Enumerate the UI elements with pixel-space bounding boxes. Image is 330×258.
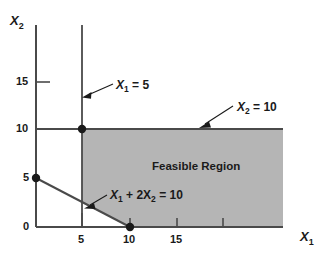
feasible-region-label: Feasible Region [152,161,240,173]
annotation-arrow-x1-eq-5 [82,84,113,99]
feasible-region-shading [82,129,283,227]
y-tick-label-0: 0 [23,221,29,232]
x-tick-label-10: 10 [123,234,135,245]
annotation-label-x1-eq-5: X1 = 5 [116,79,149,94]
x-axis-label: X1 [300,230,314,247]
x-tick-label-5: 5 [78,234,84,245]
x-tick-label-15: 15 [170,234,182,245]
y-tick-label-10: 10 [16,123,28,134]
vertex-point-10-0 [126,223,134,231]
y-tick-label-15: 15 [16,76,28,87]
vertex-point-0-5 [32,174,40,182]
vertex-point-5-10 [78,125,86,133]
annotation-arrow-x2-eq-10 [199,106,233,128]
feasible-region-chart [0,0,330,258]
y-axis-label: X2 [10,14,24,31]
y-tick-label-5: 5 [23,172,29,183]
annotation-label-x2-eq-10: X2 = 10 [237,101,277,116]
annotation-label-diagonal: X1 + 2X2 = 10 [110,189,183,204]
